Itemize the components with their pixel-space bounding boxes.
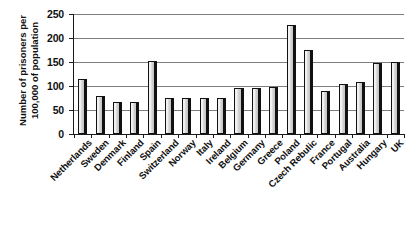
bar-germany	[252, 88, 261, 134]
bar-finland	[130, 102, 139, 134]
bar-italy	[200, 98, 209, 134]
y-tick-label: 150	[34, 56, 64, 68]
y-tick-label: 50	[34, 104, 64, 116]
bar-uk	[391, 62, 400, 134]
bars-layer	[74, 14, 404, 134]
bar-norway	[182, 98, 191, 134]
y-axis-title: Number of prisoners per 100,000 of popul…	[0, 0, 56, 140]
bar-czech-rebulic	[304, 50, 313, 134]
y-tick-label: 200	[34, 32, 64, 44]
bar-greece	[269, 87, 278, 134]
x-axis-labels: NetherlandsSwedenDenmarkFinlandSpainSwit…	[73, 137, 406, 243]
bar-hungary	[373, 63, 382, 134]
bar-spain	[148, 61, 157, 134]
bar-sweden	[96, 96, 105, 134]
bar-france	[321, 91, 330, 134]
bar-switzerland	[165, 98, 174, 134]
prisoners-bar-chart: Number of prisoners per 100,000 of popul…	[0, 0, 406, 243]
x-axis-label: UK	[389, 137, 406, 154]
bar-ireland	[217, 98, 226, 134]
bar-belgium	[234, 88, 243, 134]
bar-australia	[356, 82, 365, 134]
y-tick-label: 100	[34, 80, 64, 92]
bar-netherlands	[78, 79, 87, 134]
bar-poland	[287, 25, 296, 134]
y-axis-title-line-1: Number of prisoners per	[17, 15, 29, 126]
y-tick-label: 0	[34, 128, 64, 140]
bar-denmark	[113, 102, 122, 134]
y-tick-label: 250	[34, 8, 64, 20]
plot-area: 050100150200250	[73, 14, 404, 135]
bar-portugal	[339, 84, 348, 134]
